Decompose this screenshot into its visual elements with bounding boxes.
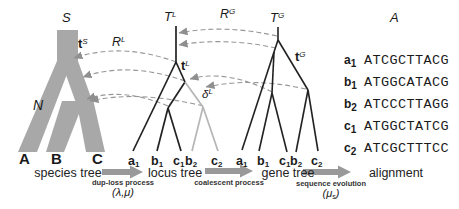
gene-leaf-a1: a1 xyxy=(236,155,247,169)
locus-recon-label: RL xyxy=(112,36,125,49)
sequence-label: a1 xyxy=(344,53,364,69)
recon-curve xyxy=(90,97,203,106)
locus-daughter-edge xyxy=(203,107,218,151)
alignment-row: b2 ATCCCTTAGG xyxy=(344,97,449,113)
alignment-row: c2 ATCGCTTTCC xyxy=(344,141,449,157)
gene-recon-label: RG xyxy=(220,8,235,21)
recon-curve xyxy=(179,42,276,48)
sequence-label: c2 xyxy=(344,141,364,157)
sequence-label: b1 xyxy=(344,75,364,91)
sequence-text: ATGGCATACG xyxy=(364,75,449,90)
species-tree-bands xyxy=(18,30,105,152)
locus-leaf-c2: c2 xyxy=(211,155,222,169)
sequence-text: ATGGCTATCG xyxy=(364,119,449,134)
coalescent-process-label: coalescent process xyxy=(194,179,264,187)
gene-edge xyxy=(259,93,272,151)
duplication-label: δL xyxy=(202,88,213,101)
alignment-header-label: A xyxy=(390,11,399,24)
gene-tree-caption: gene tree xyxy=(262,167,315,180)
sequence-text: ATCCCTTAGG xyxy=(364,97,449,112)
locus-branch-time-label: tL xyxy=(181,59,190,72)
gene-branch-time-label: tG xyxy=(295,50,306,63)
population-size-label: N xyxy=(33,98,43,112)
species-branch-time-label: tS xyxy=(78,37,88,50)
gene-edge xyxy=(242,52,274,150)
species-root-label: S xyxy=(62,11,71,24)
alignment-row: b1 ATGGCATACG xyxy=(344,75,449,91)
gene-tree-edges xyxy=(242,27,318,152)
gene-edge xyxy=(296,90,308,152)
locus-daughter-edge xyxy=(192,107,203,151)
recon-curve xyxy=(179,29,277,36)
alignment-caption: alignment xyxy=(369,167,423,180)
locus-tree-edges xyxy=(133,26,185,151)
sequence-evolution-params-label: (μs) xyxy=(323,188,340,200)
sequence-label: b2 xyxy=(344,97,364,113)
species-leaf-C: C xyxy=(92,151,103,166)
gene-tree-label: TG xyxy=(270,11,284,24)
gene-edge xyxy=(308,90,318,151)
species-leaf-B: B xyxy=(51,151,62,166)
species-root-branch xyxy=(57,30,78,63)
gene-edge xyxy=(274,40,278,52)
locus-edge xyxy=(168,108,181,151)
gene-to-locus-recon-curves xyxy=(179,29,306,92)
species-leaf-A: A xyxy=(19,151,30,166)
gene-edge xyxy=(272,93,287,152)
species-branch-C xyxy=(76,99,105,152)
alignment-row: a1 ATCGCTTACG xyxy=(344,53,449,69)
locus-leaf-a1: a1 xyxy=(128,155,139,169)
locus-edge xyxy=(157,108,168,151)
locus-tree-label: TL xyxy=(164,10,176,23)
sequence-label: c1 xyxy=(344,119,364,135)
sequence-text: ATCGCTTACG xyxy=(364,53,449,68)
gene-edge xyxy=(278,40,308,90)
dup-loss-params-label: (λ,μ) xyxy=(112,187,134,199)
locus-edge xyxy=(168,82,185,108)
species-branch-BC xyxy=(61,61,93,103)
recon-curve xyxy=(206,82,306,89)
recon-curve xyxy=(74,51,176,62)
sequence-text: ATCGCTTTCC xyxy=(364,141,449,156)
alignment-row: c1 ATGGCTATCG xyxy=(344,119,449,135)
dlcoal-model-figure: S tS N A B C RL RG TL tL δL a1 b1 c1 b2 … xyxy=(0,0,459,209)
locus-daughter-edge xyxy=(185,82,203,107)
